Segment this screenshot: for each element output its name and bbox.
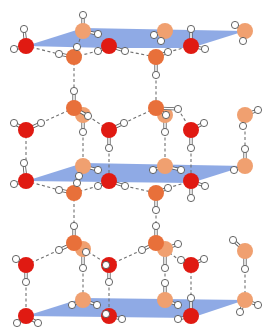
- hydrogen-atom: [55, 246, 62, 253]
- oxygen-atom: [183, 257, 199, 273]
- hydrogen-atom: [121, 47, 128, 54]
- hydrogen-atom: [200, 119, 207, 126]
- water-molecule: [148, 184, 172, 213]
- basal-plane: [26, 28, 245, 48]
- hydrogen-atom: [164, 184, 171, 191]
- oxygen-atom: [237, 23, 253, 39]
- hydrogen-atom: [82, 248, 89, 255]
- oxygen-atom: [18, 173, 34, 189]
- hydrogen-atom: [94, 47, 101, 54]
- hydrogen-atom: [161, 128, 168, 135]
- oxygen-atom: [18, 257, 34, 273]
- hydrogen-atom: [70, 87, 77, 94]
- oxygen-atom: [18, 38, 34, 54]
- oxygen-atom: [148, 100, 164, 116]
- water-molecule: [236, 292, 261, 316]
- hydrogen-atom: [200, 255, 207, 262]
- hydrogen-atom: [105, 144, 112, 151]
- hydrogen-atom: [152, 71, 159, 78]
- hydrogen-atom: [239, 122, 246, 129]
- oxygen-atom: [101, 38, 117, 54]
- oxygen-atom: [148, 185, 164, 201]
- oxygen-atom: [237, 243, 253, 259]
- water-molecule: [157, 279, 182, 308]
- hydrogen-atom: [187, 144, 194, 151]
- oxygen-atom: [148, 235, 164, 251]
- hydrogen-atom: [68, 301, 75, 308]
- hydrogen-atom: [75, 172, 82, 179]
- oxygen-atom: [183, 308, 199, 324]
- water-molecule: [55, 179, 82, 201]
- oxygen-atom: [66, 49, 82, 65]
- hydrogen-atom: [120, 119, 127, 126]
- oxygen-atom: [183, 173, 199, 189]
- oxygen-atom: [237, 292, 253, 308]
- hydrogen-atom: [20, 159, 27, 166]
- hydrogen-atom: [20, 25, 27, 32]
- hydrogen-atom: [174, 301, 181, 308]
- hydrogen-atom: [105, 278, 112, 285]
- hydrogen-atom: [201, 45, 208, 52]
- hydrogen-atom: [187, 294, 194, 301]
- hydrogen-atom: [37, 119, 44, 126]
- water-molecule: [177, 255, 207, 273]
- hydrogen-atom: [55, 186, 62, 193]
- oxygen-atom: [183, 122, 199, 138]
- hydrogen-atom: [161, 279, 168, 286]
- hydrogen-atom: [118, 315, 125, 322]
- hydrogen-atom: [70, 222, 77, 229]
- hydrogen-atom: [236, 308, 243, 315]
- oxygen-atom: [75, 23, 91, 39]
- ice-lattice-diagram: [0, 0, 269, 336]
- hydrogen-atom: [94, 30, 101, 37]
- hydrogen-atom: [102, 310, 109, 317]
- hydrogen-atom: [10, 180, 17, 187]
- oxygen-atom: [101, 122, 117, 138]
- hydrogen-atom: [254, 301, 261, 308]
- hydrogen-atom: [55, 50, 62, 57]
- hydrogen-atom: [174, 105, 181, 112]
- hydrogen-atom: [10, 45, 17, 52]
- hydrogen-atom: [94, 166, 101, 173]
- hydrogen-atom: [187, 25, 194, 32]
- oxygen-atom: [237, 107, 253, 123]
- hydrogen-atom: [164, 48, 171, 55]
- hydrogen-atom: [121, 182, 128, 189]
- oxygen-atom: [18, 122, 34, 138]
- hydrogen-atom: [229, 236, 236, 243]
- hydrogen-atom: [254, 106, 261, 113]
- hydrogen-atom: [79, 264, 86, 271]
- hydrogen-atom: [22, 278, 29, 285]
- hydrogen-atom: [177, 256, 184, 263]
- oxygen-atom: [66, 100, 82, 116]
- oxygen-atom: [66, 235, 82, 251]
- hydrogen-atom: [93, 301, 100, 308]
- water-molecule: [101, 257, 117, 286]
- hydrogen-atom: [241, 265, 248, 272]
- hydrogen-atom: [138, 246, 145, 253]
- hydrogen-atom: [150, 31, 157, 38]
- hydrogen-atom: [157, 37, 164, 44]
- hydrogen-atom: [84, 112, 91, 119]
- water-molecule: [101, 119, 128, 151]
- hydrogen-atom: [79, 11, 86, 18]
- water-molecule: [230, 145, 253, 174]
- hydrogen-atom: [13, 319, 20, 326]
- hydrogen-atom: [230, 166, 237, 173]
- oxygen-atom: [157, 158, 173, 174]
- hydrogen-atom: [174, 315, 181, 322]
- hydrogen-atom: [94, 182, 101, 189]
- oxygen-atom: [157, 292, 173, 308]
- water-molecule: [229, 236, 253, 272]
- water-molecule: [55, 222, 82, 253]
- hydrogen-atom: [231, 21, 238, 28]
- oxygen-atom: [157, 23, 173, 39]
- hydrogen-atom: [241, 145, 248, 152]
- water-molecule: [13, 308, 41, 327]
- water-molecule: [148, 100, 182, 119]
- oxygen-atom: [148, 49, 164, 65]
- hydrogen-atom: [201, 182, 208, 189]
- oxygen-atom: [237, 158, 253, 174]
- water-molecule: [10, 25, 34, 54]
- hydrogen-atom: [187, 194, 194, 201]
